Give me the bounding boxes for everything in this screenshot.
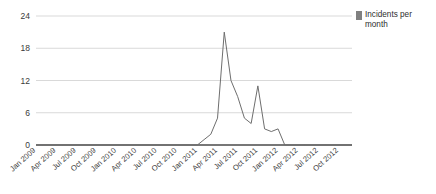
y-axis-tick-label: 6 (25, 108, 30, 118)
chart-container: 06121824Jan 2009Apr 2009Jul 2009Oct 2009… (0, 0, 436, 194)
data-series-incidents-per-month (36, 32, 352, 145)
y-axis-tick-label: 12 (21, 76, 31, 86)
legend-label-incidents: Incidents per month (365, 10, 434, 30)
legend-swatch-incidents (356, 11, 362, 20)
y-axis-tick-label: 18 (21, 43, 31, 53)
chart-legend: Incidents per month (356, 10, 434, 30)
y-axis-tick-label: 24 (21, 11, 31, 21)
